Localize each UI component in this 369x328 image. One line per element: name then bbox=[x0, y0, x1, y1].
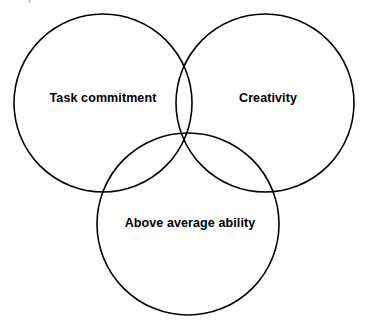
label-creativity: Creativity bbox=[239, 91, 297, 105]
label-task-commitment: Task commitment bbox=[50, 91, 158, 105]
venn-diagram: Task commitment Creativity Above average… bbox=[0, 0, 369, 328]
label-above-average-ability: Above average ability bbox=[125, 216, 256, 230]
venn-canvas: Task commitment Creativity Above average… bbox=[0, 0, 369, 328]
